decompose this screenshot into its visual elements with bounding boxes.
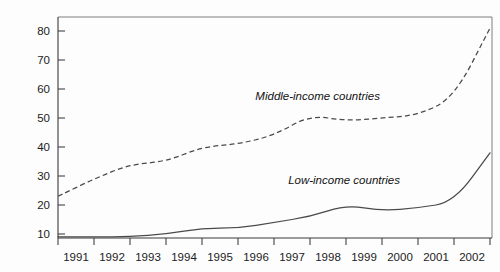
x-tick-label-1993: 1993 — [135, 251, 161, 263]
y-tick-label-20: 20 — [37, 199, 50, 211]
y-tick-label-40: 40 — [37, 141, 50, 153]
x-tick-label-1996: 1996 — [243, 251, 269, 263]
x-tick-label-2000: 2000 — [387, 251, 413, 263]
y-tick-label-30: 30 — [37, 170, 50, 182]
x-tick-label-1997: 1997 — [279, 251, 305, 263]
series-label-middle-income: Middle-income countries — [255, 90, 380, 102]
x-tick-label-1999: 1999 — [351, 251, 377, 263]
chart-background — [0, 0, 500, 272]
x-tick-label-1992: 1992 — [99, 251, 125, 263]
x-tick-label-2002: 2002 — [459, 251, 485, 263]
x-tick-label-1995: 1995 — [207, 251, 233, 263]
x-tick-label-1991: 1991 — [63, 251, 89, 263]
y-tick-label-60: 60 — [37, 83, 50, 95]
line-chart: 80 70 60 50 40 30 20 10 1991 — [0, 0, 500, 272]
y-tick-label-80: 80 — [37, 25, 50, 37]
x-tick-label-1994: 1994 — [171, 251, 197, 263]
y-tick-label-50: 50 — [37, 112, 50, 124]
y-tick-label-70: 70 — [37, 54, 50, 66]
chart-container: 80 70 60 50 40 30 20 10 1991 — [0, 0, 500, 272]
x-tick-label-1998: 1998 — [315, 251, 341, 263]
y-tick-label-10: 10 — [37, 228, 50, 240]
series-label-low-income: Low-income countries — [288, 174, 400, 186]
x-tick-label-2001: 2001 — [423, 251, 449, 263]
